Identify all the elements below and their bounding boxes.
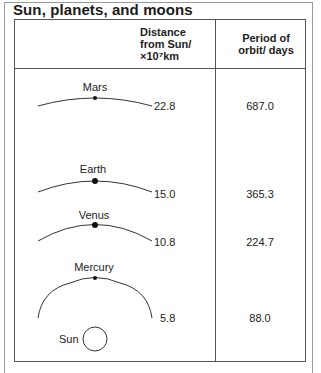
orbit-mercury [38, 278, 152, 319]
sun: Sun [59, 327, 107, 351]
distance-value: 10.8 [154, 236, 175, 248]
planet-name: Mars [83, 81, 108, 93]
sun-icon [83, 327, 107, 351]
distance-value: 15.0 [154, 188, 175, 200]
planet-mercury-icon [93, 276, 97, 280]
period-value: 224.7 [246, 236, 274, 248]
distance-value: 5.8 [160, 312, 175, 324]
planet-row-mars: Mars 22.8 687.0 [38, 81, 274, 112]
period-value: 365.3 [246, 188, 274, 200]
planet-row-mercury: Mercury 5.8 88.0 [38, 261, 271, 324]
planet-venus-icon [92, 222, 98, 228]
planet-name: Earth [80, 163, 106, 175]
planet-earth-icon [92, 178, 98, 184]
period-value: 687.0 [246, 100, 274, 112]
distance-value: 22.8 [154, 100, 175, 112]
sun-label: Sun [59, 333, 79, 345]
period-value: 88.0 [249, 312, 270, 324]
planet-name: Venus [79, 209, 110, 221]
planet-name: Mercury [74, 261, 114, 273]
planet-row-venus: Venus 10.8 224.7 [38, 209, 274, 248]
planet-row-earth: Earth 15.0 365.3 [38, 163, 274, 200]
planet-mars-icon [93, 96, 97, 100]
